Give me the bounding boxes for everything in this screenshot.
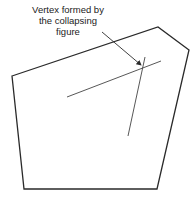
annotation-arrow (102, 32, 141, 65)
diagram-canvas (0, 0, 193, 201)
collapsing-edge-vertical (128, 57, 145, 136)
collapsing-edge-horizontal (67, 61, 161, 97)
pentagon-outline (12, 27, 189, 189)
